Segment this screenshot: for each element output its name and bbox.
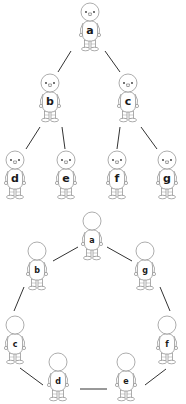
diagram-canvas: abcdefg abgcfde <box>0 0 186 404</box>
tree-edge-b-d <box>26 127 40 149</box>
ring-edge-b-c <box>14 287 24 311</box>
foot-right <box>146 286 154 290</box>
head <box>6 151 24 169</box>
foot-right <box>16 195 24 199</box>
foot-right <box>168 195 176 199</box>
ring-node-b: b <box>26 242 47 290</box>
eye-right <box>18 159 20 161</box>
tree-nodes: abcdefg <box>4 3 177 199</box>
node-label: e <box>62 172 69 185</box>
tree-node-g: g <box>156 151 177 199</box>
head <box>81 3 99 21</box>
foot-left <box>82 47 90 51</box>
node-label: b <box>34 266 40 275</box>
head <box>117 353 135 371</box>
ring-edge-a-b <box>53 247 78 261</box>
head <box>83 212 101 230</box>
tree-edge-b-e <box>62 127 65 149</box>
head <box>28 242 46 260</box>
foot-left <box>109 195 117 199</box>
node-label: c <box>13 340 18 349</box>
head <box>57 151 75 169</box>
node-label: a <box>86 24 93 37</box>
node-label: e <box>123 377 129 386</box>
head <box>49 353 67 371</box>
foot-right <box>67 195 75 199</box>
eye-left <box>162 159 164 161</box>
ring-node-g: g <box>134 242 155 290</box>
foot-left <box>7 360 15 364</box>
ring-edge-e-f <box>145 369 166 385</box>
eye-left <box>45 82 47 84</box>
foot-left <box>7 195 15 199</box>
tree-node-b: b <box>39 74 60 122</box>
eye-right <box>120 159 122 161</box>
node-label: g <box>163 172 171 185</box>
node-label: b <box>46 95 54 108</box>
head <box>136 242 154 260</box>
eye-left <box>112 159 114 161</box>
foot-left <box>84 256 92 260</box>
foot-left <box>159 195 167 199</box>
eye-left <box>10 159 12 161</box>
node-label: f <box>115 172 120 185</box>
eye-right <box>93 11 95 13</box>
foot-left <box>159 360 167 364</box>
foot-left <box>118 397 126 401</box>
foot-left <box>50 397 58 401</box>
foot-right <box>129 118 137 122</box>
node-label: d <box>55 377 61 386</box>
ring-node-c: c <box>4 316 25 364</box>
tree-edge-c-f <box>117 127 120 149</box>
node-label: d <box>11 172 19 185</box>
foot-right <box>118 195 126 199</box>
tree-edge-c-g <box>141 127 157 149</box>
eye-right <box>170 159 172 161</box>
eye-right <box>69 159 71 161</box>
tree-edge-a-b <box>58 51 71 72</box>
eye-left <box>61 159 63 161</box>
tree-node-d: d <box>4 151 25 199</box>
tree-node-f: f <box>106 151 127 199</box>
foot-left <box>120 118 128 122</box>
head <box>108 151 126 169</box>
foot-right <box>91 47 99 51</box>
ring-node-e: e <box>115 353 136 401</box>
node-label: f <box>165 340 169 349</box>
foot-left <box>137 286 145 290</box>
head <box>119 74 137 92</box>
eye-left <box>123 82 125 84</box>
tree-edge-a-c <box>105 51 120 72</box>
node-label: a <box>89 236 94 245</box>
ring-nodes: abgcfde <box>4 212 177 401</box>
eye-right <box>53 82 55 84</box>
foot-left <box>58 195 66 199</box>
foot-right <box>38 286 46 290</box>
foot-right <box>93 256 101 260</box>
eye-right <box>131 82 133 84</box>
tree-node-e: e <box>55 151 76 199</box>
ring-edge-g-f <box>160 287 170 311</box>
ring-node-f: f <box>156 316 177 364</box>
foot-right <box>16 360 24 364</box>
ring-node-a: a <box>81 212 102 260</box>
eye-left <box>85 11 87 13</box>
foot-left <box>29 286 37 290</box>
head <box>158 151 176 169</box>
foot-right <box>168 360 176 364</box>
tree-node-a: a <box>79 3 100 51</box>
ring-node-d: d <box>47 353 68 401</box>
ring-edge-a-g <box>107 247 132 261</box>
foot-right <box>51 118 59 122</box>
foot-left <box>42 118 50 122</box>
tree-node-c: c <box>117 74 138 122</box>
foot-right <box>127 397 135 401</box>
foot-right <box>59 397 67 401</box>
node-label: c <box>125 95 132 108</box>
head <box>41 74 59 92</box>
node-label: g <box>142 266 148 275</box>
head <box>6 316 24 334</box>
head <box>158 316 176 334</box>
ring-edge-c-d <box>20 368 43 385</box>
